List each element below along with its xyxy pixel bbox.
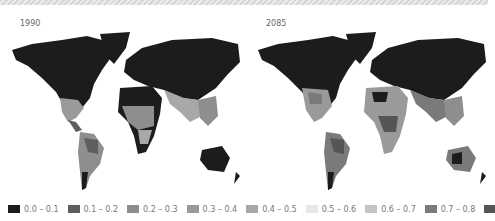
legend-item: 0.1 – 0.2 — [68, 205, 119, 214]
map-panel-1990: 1990 — [2, 12, 246, 192]
legend-item: 0.7 – 0.8 — [425, 205, 476, 214]
legend-swatch — [187, 205, 199, 213]
legend-swatch — [484, 205, 495, 213]
legend-item: 0.6 – 0.7 — [365, 205, 416, 214]
legend: 0.0 – 0.1 0.1 – 0.2 0.2 – 0.3 0.3 – 0.4 … — [8, 203, 495, 215]
legend-item: 0.2 – 0.3 — [127, 205, 178, 214]
world-map-1990 — [2, 26, 246, 192]
legend-item: 0.0 – 0.1 — [8, 205, 59, 214]
legend-item: 0.5 – 0.6 — [306, 205, 357, 214]
legend-swatch — [68, 205, 80, 213]
legend-item: 0.4 – 0.5 — [246, 205, 297, 214]
legend-swatch — [365, 205, 377, 213]
legend-swatch — [127, 205, 139, 213]
legend-swatch — [306, 205, 318, 213]
world-map-2085 — [248, 26, 492, 192]
top-decorative-band — [0, 0, 488, 5]
legend-item: 0.8 – 0.9 — [484, 205, 495, 214]
legend-item: 0.3 – 0.4 — [187, 205, 238, 214]
legend-swatch — [8, 205, 20, 213]
legend-swatch — [425, 205, 437, 213]
legend-swatch — [246, 205, 258, 213]
map-panel-2085: 2085 — [248, 12, 492, 192]
